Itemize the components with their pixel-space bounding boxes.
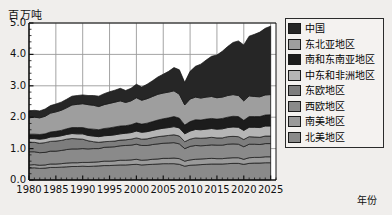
legend-swatch-icon (288, 101, 301, 112)
legend-swatch-icon (288, 54, 301, 65)
y-axis-tick: 4.0 (0, 48, 26, 59)
legend-item-label: 中东和非洲地区 (305, 70, 375, 81)
y-axis-tick: 1.0 (0, 143, 26, 154)
legend-item[interactable]: 南美地区 (288, 114, 381, 130)
legend-item-label: 东北亚地区 (305, 39, 355, 50)
legend-item[interactable]: 东北亚地区 (288, 37, 381, 53)
legend-item-label: 中国 (305, 23, 325, 34)
legend-item[interactable]: 西欧地区 (288, 99, 381, 115)
y-axis-tick: 2.0 (0, 111, 26, 122)
legend-swatch-icon (288, 39, 301, 50)
legend-item-label: 西欧地区 (305, 101, 345, 112)
y-axis-tick: 5.0 (0, 17, 26, 28)
legend-item[interactable]: 中国 (288, 21, 381, 37)
legend-item[interactable]: 中东和非洲地区 (288, 68, 381, 84)
legend-item-label: 北美地区 (305, 132, 345, 143)
legend-item-label: 南美地区 (305, 116, 345, 127)
legend-swatch-icon (288, 70, 301, 81)
legend-swatch-icon (288, 23, 301, 34)
legend-swatch-icon (288, 85, 301, 96)
legend-item[interactable]: 东欧地区 (288, 83, 381, 99)
legend-item[interactable]: 北美地区 (288, 130, 381, 146)
legend-swatch-icon (288, 116, 301, 127)
legend-item-label: 南和东南亚地区 (305, 54, 375, 65)
x-axis-unit-label: 年份 (357, 192, 377, 207)
y-axis-tick: 3.0 (0, 80, 26, 91)
legend-item[interactable]: 南和东南亚地区 (288, 52, 381, 68)
x-axis-tick: 2025 (254, 184, 288, 195)
chart-container: 百万吨 0.01.02.03.04.05.0 19801985199019952… (0, 0, 392, 215)
legend-item-label: 东欧地区 (305, 85, 345, 96)
chart-legend: 中国东北亚地区南和东南亚地区中东和非洲地区东欧地区西欧地区南美地区北美地区 (285, 18, 384, 148)
legend-swatch-icon (288, 132, 301, 143)
